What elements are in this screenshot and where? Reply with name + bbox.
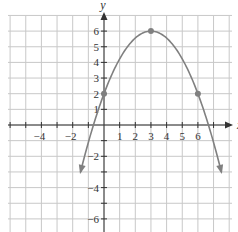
marked-point bbox=[101, 91, 107, 97]
x-tick-label: 6 bbox=[195, 130, 201, 142]
x-tick-label: 5 bbox=[180, 130, 186, 142]
marked-point bbox=[148, 28, 154, 34]
y-axis-arrow-icon bbox=[101, 12, 108, 20]
x-tick-label: 3 bbox=[148, 130, 154, 142]
y-tick-label: 3 bbox=[94, 72, 100, 84]
y-tick-label: −4 bbox=[87, 182, 99, 194]
curve-arrow-right-icon bbox=[216, 164, 223, 174]
x-tick-label: 2 bbox=[133, 130, 139, 142]
y-tick-label: 5 bbox=[94, 41, 100, 53]
x-tick-label: −4 bbox=[34, 130, 46, 142]
y-axis-label: y bbox=[99, 0, 106, 12]
marked-point bbox=[195, 91, 201, 97]
y-tick-label: 4 bbox=[94, 56, 100, 68]
y-tick-label: −6 bbox=[87, 213, 99, 225]
x-tick-label: 4 bbox=[164, 130, 170, 142]
y-tick-label: 6 bbox=[94, 25, 100, 37]
x-axis-label: x bbox=[236, 118, 238, 132]
y-tick-label: 2 bbox=[94, 88, 100, 100]
x-tick-label: −2 bbox=[65, 130, 77, 142]
curve-arrow-left-icon bbox=[79, 164, 86, 174]
y-tick-label: −2 bbox=[87, 150, 99, 162]
parabola-chart: −4−2123456654321−2−4−6yx bbox=[0, 0, 238, 232]
x-tick-label: 1 bbox=[117, 130, 123, 142]
